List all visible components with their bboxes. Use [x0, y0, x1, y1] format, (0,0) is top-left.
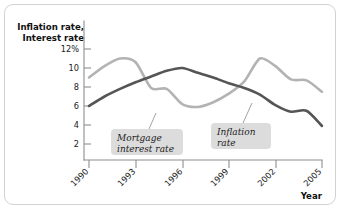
y-axis-title-line1: Inflation rate,	[17, 22, 84, 32]
line-chart: Inflation rate, Interest rate 12% 10 8 6…	[5, 5, 337, 206]
annotation-leader-mortgage	[149, 113, 156, 129]
annotation-label-mortgage-line2: interest rate	[117, 144, 174, 154]
chart-figure-frame: Inflation rate, Interest rate 12% 10 8 6…	[4, 4, 336, 205]
x-tick-label-1990: 1990	[68, 166, 90, 188]
x-axis-title: Year	[300, 191, 323, 201]
annotation-label-inflation-line2: rate	[217, 138, 236, 148]
y-tick-label-8: 8	[74, 82, 79, 92]
annotation-leader-inflation	[243, 103, 252, 123]
y-tick-label-12: 12%	[61, 44, 79, 54]
y-tick-label-2: 2	[74, 139, 79, 149]
series-line-mortgage-interest-rate	[89, 58, 322, 107]
x-tick-label-2002: 2002	[255, 166, 277, 188]
x-tick-label-2005: 2005	[301, 166, 323, 188]
y-tick-label-6: 6	[74, 101, 79, 111]
x-tick-label-1993: 1993	[115, 166, 137, 188]
x-tick-label-1999: 1999	[208, 166, 230, 188]
annotation-label-inflation-line1: Inflation	[216, 127, 256, 137]
y-tick-label-10: 10	[69, 63, 79, 73]
y-axis-title-line2: Interest rate	[22, 33, 84, 43]
y-tick-label-4: 4	[74, 120, 79, 130]
x-tick-label-1996: 1996	[162, 166, 184, 188]
annotation-label-mortgage-line1: Mortgage	[116, 133, 162, 143]
